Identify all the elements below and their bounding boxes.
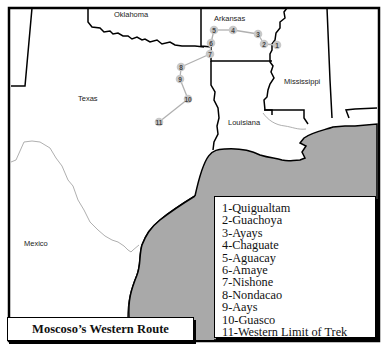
label-texas: Texas: [78, 94, 98, 103]
route-marker-3: 3: [254, 30, 263, 39]
marker-number: 11: [156, 119, 163, 126]
route-marker-1: 1: [273, 41, 282, 50]
marker-number: 3: [256, 31, 260, 38]
legend-item: 7-Nishone: [222, 276, 375, 288]
marker-number: 5: [212, 27, 216, 34]
map-title-box: Moscoso’s Western Route: [7, 317, 194, 341]
legend-item: 4-Chaguate: [222, 239, 375, 251]
legend-item: 9-Aays: [222, 301, 375, 313]
marker-number: 10: [184, 96, 192, 103]
route-marker-9: 9: [176, 75, 185, 84]
route-marker-4: 4: [229, 26, 238, 35]
label-oklahoma: Oklahoma: [114, 10, 149, 19]
legend-list: 1-Quigualtam2-Guachoya3-Ayays4-Chaguate5…: [215, 197, 375, 338]
route-marker-6: 6: [207, 39, 216, 48]
marker-number: 9: [178, 76, 182, 83]
marker-number: 7: [208, 51, 212, 58]
marker-number: 1: [275, 42, 279, 49]
label-arkansas: Arkansas: [214, 14, 246, 23]
route-marker-11: 11: [155, 118, 164, 127]
label-louisiana: Louisiana: [228, 118, 261, 127]
route-marker-8: 8: [177, 63, 186, 72]
marker-number: 2: [262, 41, 266, 48]
route-marker-10: 10: [184, 95, 193, 104]
map-title: Moscoso’s Western Route: [32, 322, 169, 337]
route-marker-7: 7: [206, 50, 215, 59]
route-marker-2: 2: [260, 40, 269, 49]
marker-number: 8: [179, 64, 183, 71]
label-mexico: Mexico: [24, 239, 48, 248]
legend-item: 2-Guachoya: [222, 214, 375, 226]
label-mississippi: Mississippi: [284, 77, 321, 86]
legend: 1-Quigualtam2-Guachoya3-Ayays4-Chaguate5…: [214, 196, 376, 338]
route-marker-5: 5: [210, 26, 219, 35]
marker-number: 4: [231, 27, 235, 34]
marker-number: 6: [209, 40, 213, 47]
legend-item: 11-Western Limit of Trek: [222, 326, 375, 338]
